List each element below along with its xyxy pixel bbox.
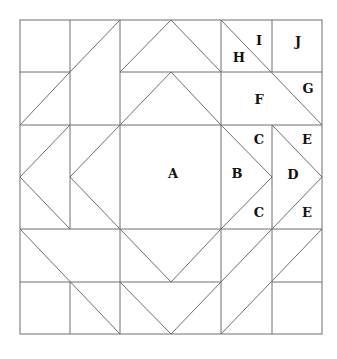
- seam: [171, 282, 221, 334]
- seam: [20, 177, 70, 229]
- seam: [221, 229, 272, 282]
- seam: [20, 72, 70, 125]
- seam: [20, 125, 70, 177]
- seam: [171, 20, 221, 72]
- label-j: J: [294, 34, 301, 49]
- label-a: A: [167, 166, 179, 181]
- label-c-bottom: C: [254, 205, 264, 220]
- label-f: F: [254, 92, 264, 107]
- seam: [221, 125, 272, 177]
- label-e-bottom: E: [302, 205, 312, 220]
- seam: [272, 177, 322, 229]
- seam: [120, 20, 171, 72]
- seam: [120, 72, 171, 125]
- seam: [70, 177, 120, 229]
- seam: [171, 72, 221, 125]
- seam: [120, 282, 171, 334]
- seam: [120, 229, 171, 282]
- quilt-block-diagram: A B C C D E E F G H I J: [0, 0, 337, 359]
- seam: [221, 177, 272, 229]
- label-i: I: [256, 33, 262, 48]
- label-c-top: C: [254, 132, 264, 147]
- label-d: D: [287, 167, 298, 182]
- piece-labels: A B C C D E E F G H I J: [167, 33, 314, 220]
- seam: [171, 229, 221, 282]
- seam: [70, 20, 120, 72]
- label-h: H: [233, 50, 245, 65]
- label-b: B: [232, 166, 243, 181]
- seam: [70, 125, 120, 177]
- label-e-top: E: [302, 132, 312, 147]
- label-g: G: [302, 81, 313, 96]
